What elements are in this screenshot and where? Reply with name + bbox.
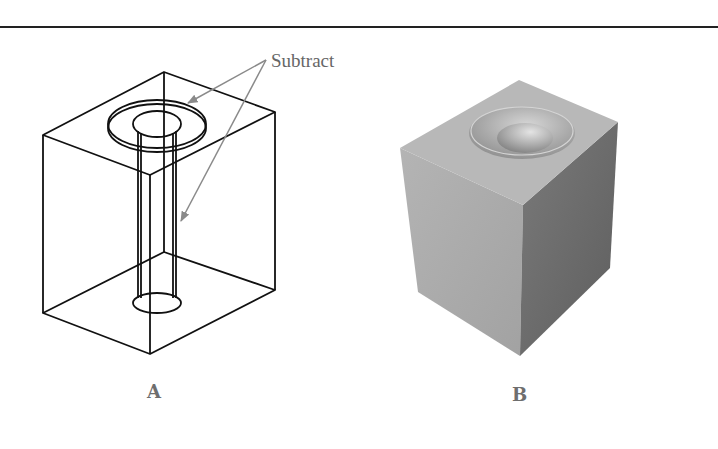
box-top-face: [43, 72, 275, 175]
subtract-label: Subtract: [271, 50, 335, 71]
figure-canvas: Subtract A B: [0, 0, 718, 449]
counterbore-outer-top: [108, 100, 206, 148]
panel-a-wireframe: [43, 72, 275, 354]
hole-bottom-ellipse: [133, 293, 181, 313]
box-bottom-face: [43, 252, 275, 354]
panel-b-label: B: [512, 384, 527, 405]
panel-b-shaded-cube: [400, 80, 618, 356]
through-hole: [497, 123, 553, 153]
panel-a-label: A: [146, 381, 162, 402]
